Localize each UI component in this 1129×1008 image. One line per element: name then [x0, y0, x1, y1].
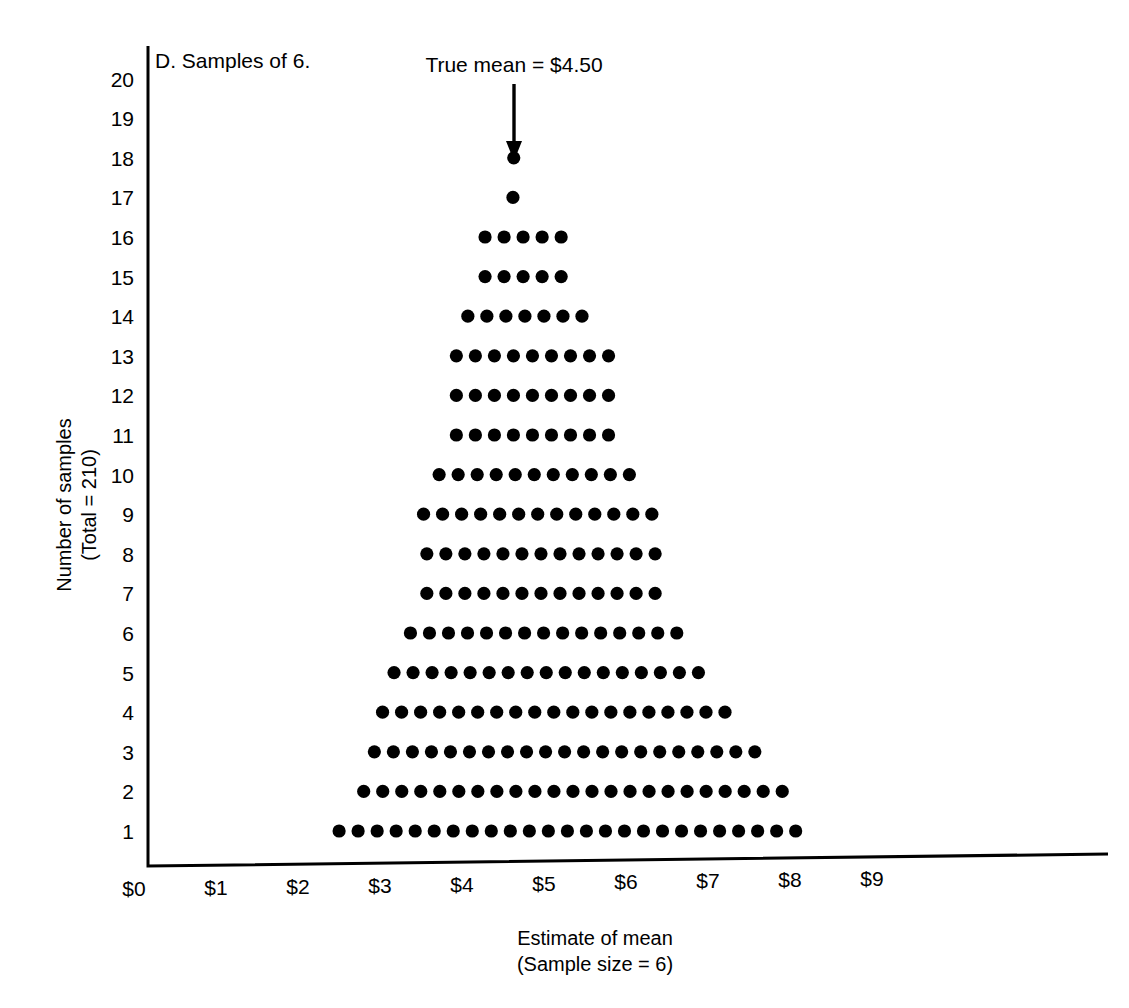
data-dot: [506, 191, 519, 204]
dot-row-5: [387, 666, 705, 679]
data-dot: [464, 666, 477, 679]
data-dot: [649, 587, 662, 600]
axes: [148, 46, 1108, 866]
y-tick-label-13: 13: [111, 345, 134, 368]
dot-row-1: [333, 824, 803, 837]
y-tick-label-12: 12: [111, 384, 134, 407]
data-dot: [478, 230, 491, 243]
x-tick-label-$8: $8: [778, 868, 801, 891]
data-dot: [471, 785, 484, 798]
y-tick-label-19: 19: [111, 107, 134, 130]
data-dot: [515, 587, 528, 600]
y-tick-label-4: 4: [122, 701, 134, 724]
data-dot: [406, 666, 419, 679]
data-dot: [564, 349, 577, 362]
dot-row-9: [417, 508, 658, 521]
data-dot: [488, 349, 501, 362]
data-dot: [670, 626, 683, 639]
data-dot: [770, 824, 783, 837]
data-dot: [661, 785, 674, 798]
data-dot: [642, 706, 655, 719]
data-dot: [466, 824, 479, 837]
data-dot: [575, 626, 588, 639]
axis-lines: [148, 46, 1108, 866]
y-tick-label-16: 16: [111, 226, 134, 249]
dot-row-3: [368, 745, 762, 758]
data-dot: [623, 785, 636, 798]
data-dot: [561, 824, 574, 837]
data-dot: [550, 508, 563, 521]
data-dot: [672, 745, 685, 758]
dot-row-6: [404, 626, 684, 639]
data-dot: [507, 349, 520, 362]
data-dot: [423, 626, 436, 639]
x-tick-label-$4: $4: [450, 873, 474, 896]
data-dot: [594, 626, 607, 639]
data-dot: [626, 508, 639, 521]
data-dot: [691, 745, 704, 758]
data-dot: [509, 706, 522, 719]
dot-row-11: [450, 428, 615, 441]
data-dot: [371, 824, 384, 837]
data-dot: [599, 824, 612, 837]
data-dot: [390, 824, 403, 837]
data-dot: [719, 785, 732, 798]
y-tick-label-9: 9: [122, 503, 134, 526]
true-mean-annotation: True mean = $4.50: [425, 53, 602, 161]
data-dot: [610, 587, 623, 600]
data-dot: [478, 270, 491, 283]
data-dot: [395, 706, 408, 719]
data-dot: [649, 547, 662, 560]
data-dot: [564, 389, 577, 402]
x-axis-tick-labels: $0$1$2$3$4$5$6$7$8$9: [122, 867, 883, 900]
data-dot: [692, 666, 705, 679]
y-tick-label-15: 15: [111, 266, 134, 289]
y-tick-label-3: 3: [122, 741, 134, 764]
dot-row-7: [420, 587, 661, 600]
dot-row-17: [506, 191, 519, 204]
data-dot: [596, 745, 609, 758]
data-dot: [520, 745, 533, 758]
data-dot: [623, 468, 636, 481]
data-dot: [406, 745, 419, 758]
data-dot: [528, 468, 541, 481]
data-dot: [526, 349, 539, 362]
data-dot: [493, 508, 506, 521]
x-tick-label-$1: $1: [204, 876, 227, 899]
data-dot: [528, 785, 541, 798]
data-dot: [480, 310, 493, 323]
data-dot: [482, 745, 495, 758]
data-dot: [534, 587, 547, 600]
data-dot: [545, 389, 558, 402]
data-dot: [566, 785, 579, 798]
data-dot: [545, 349, 558, 362]
data-dot: [395, 785, 408, 798]
data-dot: [591, 587, 604, 600]
data-dot: [425, 745, 438, 758]
data-dot: [585, 785, 598, 798]
data-dot: [515, 547, 528, 560]
data-dot: [428, 824, 441, 837]
data-dot: [496, 547, 509, 560]
dot-row-4: [376, 706, 732, 719]
dot-row-13: [450, 349, 615, 362]
x-tick-label-$3: $3: [368, 874, 391, 897]
x-axis-label: Estimate of mean: [517, 927, 673, 949]
data-dot: [569, 508, 582, 521]
data-dot: [534, 547, 547, 560]
data-dot: [635, 666, 648, 679]
data-dot: [458, 587, 471, 600]
data-dot: [485, 824, 498, 837]
data-dot: [634, 745, 647, 758]
data-dot: [518, 626, 531, 639]
data-dot: [713, 824, 726, 837]
chart-canvas: 1234567891011121314151617181920 $0$1$2$3…: [0, 0, 1129, 1008]
data-dot: [630, 547, 643, 560]
panel-title: D. Samples of 6.: [155, 49, 310, 72]
data-dot: [536, 270, 549, 283]
data-dot: [523, 824, 536, 837]
data-dot: [490, 468, 503, 481]
x-tick-label-$6: $6: [614, 870, 637, 893]
data-dot: [751, 824, 764, 837]
data-dot: [488, 428, 501, 441]
